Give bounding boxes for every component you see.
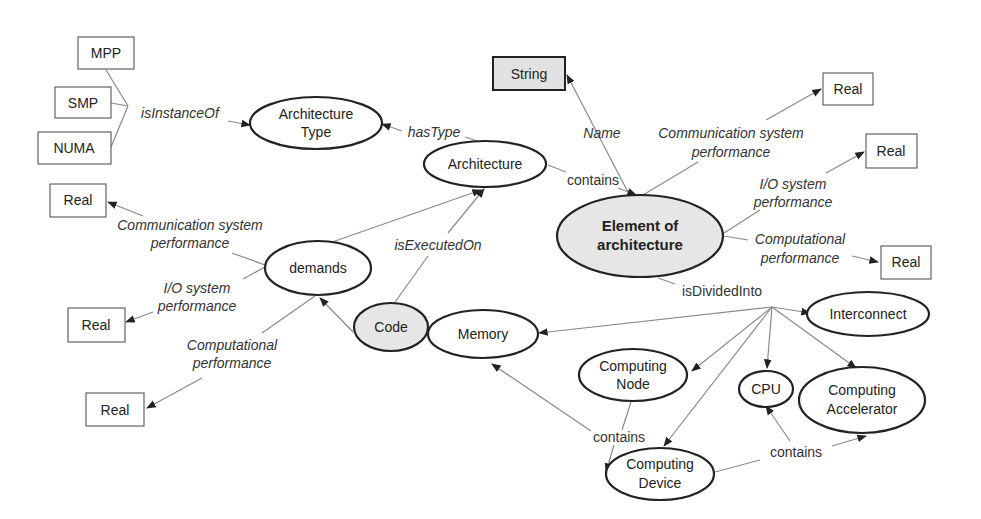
edge-comm-right-a [638,162,698,198]
node-code-label: Code [374,319,408,335]
edge-isdividedinto-tail [658,278,675,284]
edge-contains-cpu [766,406,790,441]
edge-to-memory [539,307,772,333]
node-demands-label: demands [289,260,347,276]
label-io-left-2: performance [157,298,237,314]
node-cpu[interactable]: CPU [739,371,793,407]
ontology-diagram: MPP SMP NUMA String Real Real Real Real [0,0,981,519]
edge-isinstanceof-arrow [228,121,250,125]
node-computing-device-label-1: Computing [626,456,694,472]
label-isinstanceof: isInstanceOf [141,105,221,121]
node-real-left-1-label: Real [64,192,93,208]
edge-to-computing-node [692,307,772,371]
node-architecture[interactable]: Architecture [424,141,546,187]
edge-comp-left-b [147,378,202,408]
label-comp-left-2: performance [192,355,272,371]
edge-code-demands [320,298,353,332]
edge-io-right-b [826,152,864,173]
edge-iexec-a [393,256,428,305]
label-isdividedinto: isDividedInto [682,283,762,299]
label-comm-left-1: Communication system [117,217,263,233]
node-real-low-right-label: Real [892,254,921,270]
edge-contains-accelerator [832,436,866,446]
edge-comp-right-a [724,236,748,240]
edge-io-left-a [243,267,265,279]
label-comp-left-1: Computational [187,337,278,353]
node-architecture-type-label-1: Architecture [279,106,354,122]
node-real-mid-right-label: Real [877,143,906,159]
node-memory[interactable]: Memory [428,310,538,358]
label-comp-right-2: performance [760,250,840,266]
node-demands[interactable]: demands [265,241,371,295]
node-architecture-type[interactable]: Architecture Type [250,97,382,149]
node-mpp[interactable]: MPP [78,37,134,69]
edge-comm-left-a [232,253,265,265]
node-computing-accelerator[interactable]: Computing Accelerator [799,367,925,433]
node-numa[interactable]: NUMA [38,132,111,164]
node-computing-node-label-1: Computing [599,358,667,374]
node-real-top-right-label: Real [834,81,863,97]
node-real-left-1[interactable]: Real [50,184,106,217]
node-architecture-label: Architecture [448,156,523,172]
node-real-left-3[interactable]: Real [86,393,144,426]
node-element-label-1: Element of [602,217,680,234]
edge-comm-left-b [108,202,143,216]
label-name: Name [583,125,621,141]
node-smp[interactable]: SMP [55,87,111,118]
node-mpp-label: MPP [91,45,121,61]
edge-comp-left-a [262,296,315,333]
edge-comm-right-b [766,89,821,120]
label-io-right-1: I/O system [760,176,827,192]
node-numa-label: NUMA [53,140,95,156]
edge-smp-instance [111,103,128,106]
node-computing-device[interactable]: Computing Device [606,448,714,500]
node-computing-node-label-2: Node [616,376,650,392]
label-io-right-2: performance [753,194,833,210]
node-real-left-2[interactable]: Real [68,308,125,342]
node-real-top-right[interactable]: Real [823,73,873,105]
node-string[interactable]: String [493,57,565,90]
label-comp-right-1: Computational [755,231,846,247]
node-computing-accelerator-label-2: Accelerator [827,401,898,417]
node-real-mid-right[interactable]: Real [866,134,917,168]
node-code[interactable]: Code [354,303,428,351]
node-real-left-2-label: Real [82,317,111,333]
node-cpu-label: CPU [751,381,781,397]
edge-io-right-a [724,210,760,233]
node-architecture-type-label-2: Type [301,124,332,140]
edge-contains-memory [492,364,591,431]
label-hastype: hasType [408,124,461,140]
node-memory-label: Memory [458,326,509,342]
node-real-low-right[interactable]: Real [881,246,931,279]
edge-to-cpu [767,307,772,368]
label-contains-arch: contains [567,172,619,188]
node-computing-accelerator-label-1: Computing [828,382,896,398]
edge-to-interconnect [772,307,810,313]
edge-contains-arch-a [548,165,566,172]
node-real-left-3-label: Real [101,402,130,418]
node-interconnect[interactable]: Interconnect [807,292,929,336]
label-contains-device: contains [770,444,822,460]
label-io-left-1: I/O system [164,280,231,296]
node-string-label: String [511,66,548,82]
edge-contains-device-a [622,402,631,430]
node-computing-device-label-2: Device [639,475,682,491]
label-comm-right-1: Communication system [658,125,804,141]
node-element-label-2: architecture [597,236,683,253]
edge-comp-right-b [852,256,878,262]
edge-numa-instance [111,106,128,147]
node-element-of-architecture[interactable]: Element of architecture [557,195,723,277]
label-comm-left-2: performance [150,235,230,251]
edge-io-left-b [126,312,153,322]
node-computing-node[interactable]: Computing Node [579,349,687,401]
label-comm-right-2: performance [691,144,771,160]
edge-contains-device-to-labels [715,460,760,472]
node-interconnect-label: Interconnect [829,306,906,322]
label-contains-node: contains [593,429,645,445]
node-smp-label: SMP [68,95,98,111]
label-isexecutedon: isExecutedOn [394,237,481,253]
edge-hastype-arrow [382,124,402,131]
